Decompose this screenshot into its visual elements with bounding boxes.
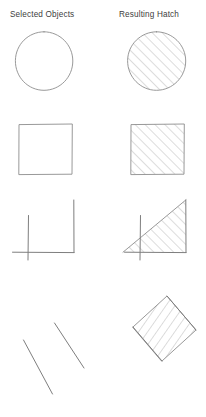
column-header-selected-objects: Selected Objects — [10, 11, 74, 19]
row-2-resulting-hatch — [129, 122, 187, 177]
circle-shape — [15, 32, 72, 91]
triangle-hatch-fill — [118, 196, 192, 258]
row-3-selected-object — [13, 200, 75, 260]
shapes-canvas — [0, 0, 206, 417]
row-3-resulting-hatch — [118, 196, 192, 260]
hatch-illustration-figure: Selected Objects Resulting Hatch — [0, 0, 206, 417]
parallel-line-right — [55, 323, 85, 368]
row-1-selected-object — [15, 32, 72, 91]
row-2-selected-object — [19, 124, 72, 175]
circle-hatch-fill — [125, 28, 191, 96]
row-4-selected-object — [24, 323, 85, 394]
parallelogram-hatch-fill — [128, 291, 202, 367]
column-header-resulting-hatch: Resulting Hatch — [119, 11, 179, 19]
open-shape-left-vertical-line — [28, 216, 29, 261]
parallel-line-left — [24, 340, 53, 394]
open-shape-left-vertical-line — [140, 216, 141, 261]
square-hatch-fill — [129, 122, 187, 177]
row-4-resulting-hatch — [128, 291, 202, 367]
row-1-resulting-hatch — [125, 28, 191, 96]
square-shape — [19, 124, 72, 175]
